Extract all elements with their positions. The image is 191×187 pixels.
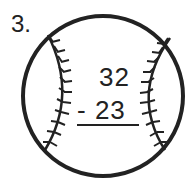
minuend: 32 — [99, 64, 130, 90]
subtrahend: - 23 — [77, 97, 126, 123]
answer-line — [77, 124, 139, 126]
baseball-icon — [0, 0, 191, 187]
